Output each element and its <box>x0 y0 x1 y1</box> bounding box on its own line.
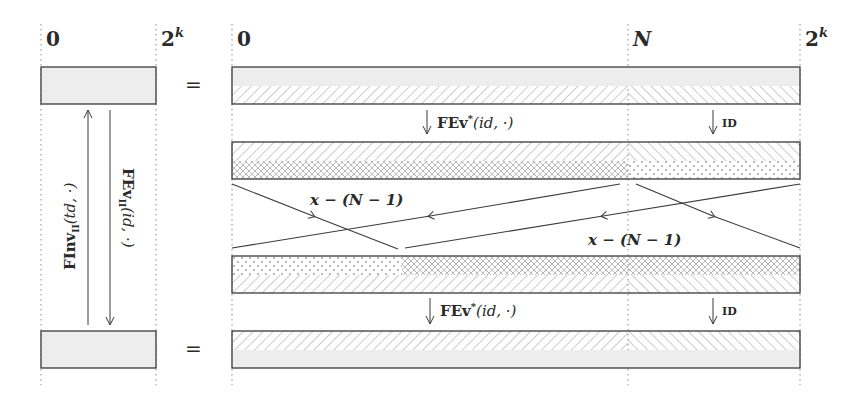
label-left-2k: 2k <box>161 25 184 51</box>
equals-sign-bottom: = <box>185 337 202 361</box>
label-right-2k: 2k <box>805 25 828 51</box>
label-shift-upper: x − (N − 1) <box>309 191 403 209</box>
label-finv-ii: FInvII(td, ·) <box>61 182 81 270</box>
left-box-top <box>41 67 156 104</box>
label-shift-lower: x − (N − 1) <box>587 231 681 249</box>
label-id-2: ID <box>722 305 737 318</box>
label-fev-ii: FEvII(id, ·) <box>117 168 137 248</box>
row-4-bar <box>232 331 800 368</box>
label-left-0: 0 <box>46 27 60 51</box>
label-fev-star-2: FEv*(id, ·) <box>440 301 517 320</box>
label-right-N: N <box>632 27 652 51</box>
label-right-0: 0 <box>237 27 251 51</box>
equals-sign-top: = <box>185 73 202 97</box>
label-fev-star-1: FEv*(id, ·) <box>437 113 514 132</box>
label-id-1: ID <box>722 117 737 130</box>
shift-line-b <box>232 184 620 248</box>
row-3-bar <box>232 256 800 293</box>
diagram-canvas: 0 2k 0 N 2k = = FInvII(td, ·) FEvII(id, … <box>0 0 859 400</box>
row-1-bar <box>232 67 800 104</box>
row-2-bar <box>232 142 800 179</box>
left-box-bottom <box>41 331 156 368</box>
